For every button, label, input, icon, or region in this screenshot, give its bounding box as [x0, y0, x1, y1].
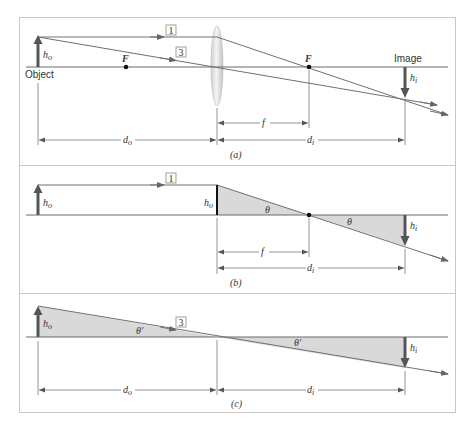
ray-1	[38, 37, 448, 115]
object-label: Object	[25, 69, 54, 80]
svg-text:ho: ho	[204, 197, 213, 210]
thin-lens-diagram: 1 3 F F ho Object hi Image f do di (	[0, 0, 471, 431]
f-label: f	[262, 117, 266, 128]
svg-text:ho: ho	[43, 49, 52, 62]
focal-point-left	[124, 65, 129, 70]
svg-text:1: 1	[169, 173, 174, 184]
svg-text:θ′: θ′	[294, 337, 302, 348]
image-label: Image	[394, 53, 422, 64]
focal-left-label: F	[121, 53, 129, 64]
caption-a: (a)	[230, 149, 242, 161]
theta-left: θ	[265, 204, 270, 215]
svg-text:θ′: θ′	[136, 325, 144, 336]
svg-text:di: di	[307, 262, 314, 275]
svg-text:hi: hi	[410, 72, 417, 85]
svg-text:hi: hi	[410, 220, 417, 233]
caption-c: (c)	[231, 398, 243, 410]
ray-3-label: 3	[179, 47, 184, 58]
svg-text:di: di	[307, 134, 314, 147]
svg-text:hi: hi	[410, 342, 417, 355]
svg-text:ho: ho	[43, 197, 52, 210]
panel-a: 1 3 F F ho Object hi Image f do di (	[25, 25, 448, 162]
svg-text:do: do	[123, 384, 132, 397]
theta-right: θ	[347, 216, 352, 227]
focal-point-right	[307, 65, 312, 70]
panel-b: 1 ho ho hi θ θ f di (b)	[26, 173, 448, 290]
svg-text:do: do	[123, 134, 132, 147]
focal-right-label: F	[304, 53, 312, 64]
ray-3	[38, 37, 437, 105]
ray-1-label: 1	[169, 25, 174, 36]
svg-text:f: f	[261, 246, 265, 257]
panel-c: 3 ho hi θ′ θ′ do di (c)	[26, 306, 448, 410]
svg-text:3: 3	[179, 317, 184, 328]
caption-b: (b)	[230, 277, 242, 289]
svg-text:di: di	[307, 384, 314, 397]
